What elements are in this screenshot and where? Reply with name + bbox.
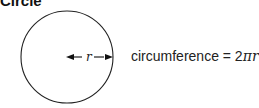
formula-var: r — [252, 48, 259, 64]
radius-label: r — [86, 50, 93, 64]
circumference-formula: circumference = 2πr — [131, 48, 259, 64]
formula-pi: π — [243, 48, 252, 64]
formula-prefix: circumference = 2 — [131, 48, 243, 64]
